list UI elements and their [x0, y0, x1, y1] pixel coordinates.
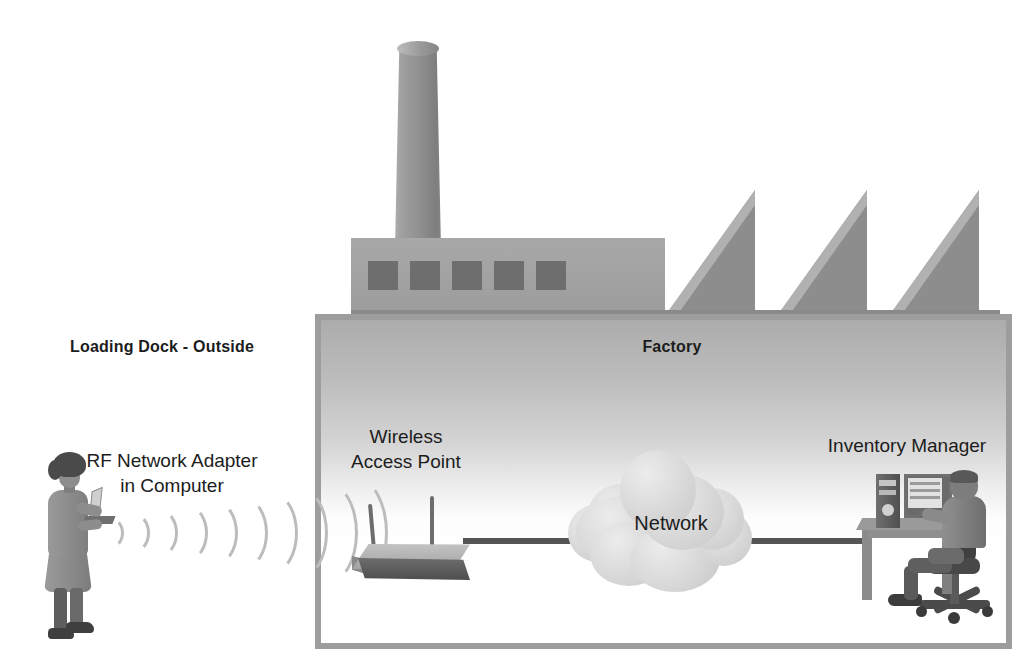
node-label-rf-network-adapter: RF Network Adapter in Computer	[72, 448, 272, 498]
smokestack-icon	[392, 48, 444, 243]
sawtooth-roof-icon	[777, 190, 867, 316]
wireless-router-icon	[352, 494, 482, 586]
sawtooth-roof-icon	[665, 190, 755, 316]
smokestack-cap-icon	[397, 41, 439, 56]
antenna-icon	[430, 496, 434, 548]
zone-label-loading-dock: Loading Dock - Outside	[57, 338, 267, 356]
sawtooth-roof-icon	[889, 190, 979, 316]
factory-window-icon	[368, 261, 398, 290]
factory-window-icon	[494, 261, 524, 290]
seated-man-at-desk-icon	[846, 466, 1006, 638]
diagram-canvas: Loading Dock - Outside Factory RF Networ…	[0, 0, 1035, 668]
node-label-network: Network	[604, 511, 738, 536]
antenna-icon	[368, 504, 376, 550]
factory-window-icon	[452, 261, 482, 290]
node-label-wireless-access-point: Wireless Access Point	[344, 424, 468, 474]
factory-window-icon	[410, 261, 440, 290]
factory-building-illustration	[0, 0, 1035, 330]
zone-label-factory: Factory	[612, 338, 732, 356]
node-label-inventory-manager: Inventory Manager	[812, 433, 1002, 458]
factory-window-icon	[536, 261, 566, 290]
